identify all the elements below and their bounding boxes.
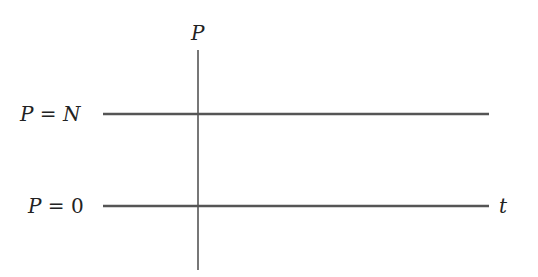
equilibrium-label-zero: P = 0 [27, 194, 84, 218]
p-axis-label: P [190, 21, 205, 45]
t-axis-label: t [499, 194, 508, 218]
equilibrium-label-n: P = N [19, 102, 82, 126]
phase-line-diagram: P P = N P = 0 t [0, 0, 538, 277]
